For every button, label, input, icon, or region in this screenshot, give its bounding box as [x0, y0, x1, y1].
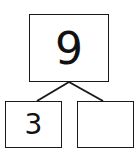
whole-value: 9 [55, 23, 83, 74]
right-connector [69, 82, 103, 101]
part-box-right[interactable] [77, 101, 134, 148]
part-box-left: 3 [5, 101, 62, 148]
left-connector [37, 82, 69, 101]
part-value-left: 3 [25, 108, 43, 141]
whole-box: 9 [29, 14, 109, 82]
